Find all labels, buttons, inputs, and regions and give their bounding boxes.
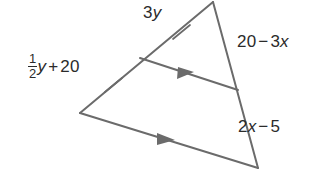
label-top-coefficient: 3 bbox=[143, 3, 153, 22]
label-left-operator: + bbox=[46, 57, 60, 76]
parallel-arrow-bottom bbox=[157, 133, 175, 145]
fraction-one-half: 1 2 bbox=[28, 52, 37, 80]
geometry-figure: 1 2 y+20 3y 20−3x 2x−5 bbox=[0, 0, 331, 181]
label-right-upper-variable: x bbox=[280, 32, 289, 51]
label-right-upper-operator: − bbox=[256, 32, 270, 51]
label-right-upper-side: 20−3x bbox=[237, 33, 289, 50]
label-top-side: 3y bbox=[143, 4, 161, 21]
label-right-lower-side: 2x−5 bbox=[238, 118, 280, 135]
label-right-upper-constant: 20 bbox=[237, 32, 256, 51]
parallel-arrow-midsegment bbox=[177, 67, 194, 79]
label-left-side: 1 2 y+20 bbox=[28, 52, 80, 80]
label-top-variable: y bbox=[153, 3, 162, 22]
label-right-lower-operator: − bbox=[256, 117, 270, 136]
fraction-denominator: 2 bbox=[28, 66, 37, 81]
geometry-canvas bbox=[0, 0, 331, 181]
label-left-variable: y bbox=[37, 57, 46, 76]
label-right-lower-coefficient: 2 bbox=[238, 117, 248, 136]
fraction-numerator: 1 bbox=[28, 52, 37, 66]
label-right-upper-coefficient: 3 bbox=[270, 32, 280, 51]
label-right-lower-constant: 5 bbox=[271, 117, 281, 136]
tick-mark-lower bbox=[105, 78, 122, 92]
label-left-constant: 20 bbox=[60, 57, 79, 76]
